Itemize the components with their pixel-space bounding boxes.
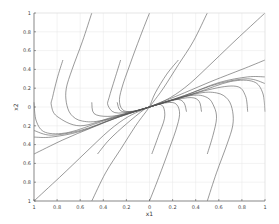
x-tick-label: 0.2 xyxy=(122,204,130,210)
x-tick-labels: 10.80.60.40.200.20.40.60.81 xyxy=(32,199,266,210)
trajectory-traj-2 xyxy=(119,13,149,112)
y-tick-label: 0.8 xyxy=(23,29,31,35)
y-tick-label: 0.6 xyxy=(23,47,31,53)
x-tick-label: 0.6 xyxy=(76,204,84,210)
x-tick-label: 0.4 xyxy=(192,204,200,210)
y-tick-label: 0.2 xyxy=(23,85,31,91)
phase-portrait-chart: 10.80.60.40.200.20.40.60.81 10.80.60.40.… xyxy=(0,0,279,224)
trajectory-traj-18 xyxy=(150,92,234,201)
x-tick-label: 1 xyxy=(32,204,35,210)
trajectory-traj-27 xyxy=(92,102,150,116)
x-tick-label: 1 xyxy=(263,204,266,210)
y-tick-label: 1 xyxy=(28,198,31,204)
x-axis-label: x1 xyxy=(146,210,154,217)
x-tick-label: 0.2 xyxy=(169,204,177,210)
y-tick-label: 0.4 xyxy=(23,66,31,72)
y-tick-label: 0.8 xyxy=(23,179,31,185)
x-tick-label: 0.8 xyxy=(238,204,246,210)
x-tick-label: 0.6 xyxy=(215,204,223,210)
trajectory-traj-25 xyxy=(150,77,266,108)
trajectory-traj-4 xyxy=(150,13,266,107)
trajectory-traj-17 xyxy=(150,104,165,154)
y-tick-label: 0 xyxy=(28,104,31,110)
y-tick-label: 0.2 xyxy=(23,123,31,129)
trajectory-traj-13 xyxy=(34,107,150,201)
x-tick-label: 0.8 xyxy=(53,204,61,210)
y-tick-label: 0.6 xyxy=(23,160,31,166)
y-axis-label: x2 xyxy=(12,103,19,111)
y-tick-label: 1 xyxy=(28,10,31,16)
x-tick-label: 0.4 xyxy=(99,204,107,210)
trajectory-traj-1 xyxy=(66,13,150,122)
y-tick-label: 0.4 xyxy=(23,141,31,147)
